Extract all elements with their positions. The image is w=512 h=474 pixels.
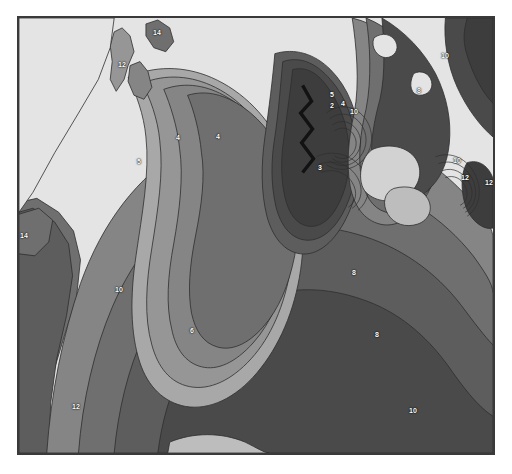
map-frame: 12 14 4 4 5 3 2 14 10 6 12 8 10 8 10 8 1… (17, 16, 495, 455)
contour-map-canvas (19, 18, 493, 453)
light-pocket-small (411, 72, 432, 95)
page-root: 12 14 4 4 5 3 2 14 10 6 12 8 10 8 10 8 1… (0, 0, 512, 474)
